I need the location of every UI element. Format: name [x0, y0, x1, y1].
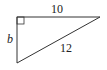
hypotenuse-label: 12 — [60, 41, 72, 55]
triangle-diagram: 10 b 12 — [0, 0, 107, 70]
top-side-label: 10 — [51, 2, 63, 16]
left-side-label: b — [7, 32, 13, 46]
right-angle-marker — [17, 17, 24, 24]
triangle-shape — [17, 17, 100, 63]
